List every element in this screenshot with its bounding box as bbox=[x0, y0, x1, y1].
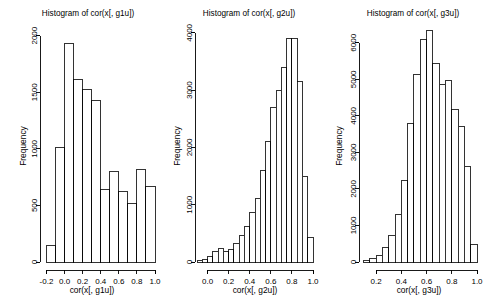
panel-histogram-2: Histogram of cor(x[, g2u]) Frequency cor… bbox=[163, 0, 326, 308]
x-axis-tick-label: 0.8 bbox=[286, 277, 298, 286]
x-axis-line bbox=[207, 270, 312, 274]
histogram-bar bbox=[260, 170, 265, 262]
histogram-bar bbox=[47, 245, 56, 262]
x-axis-2: 0.00.20.40.60.81.0 bbox=[202, 270, 319, 286]
histogram-bar bbox=[207, 257, 212, 262]
panel-histogram-3: Histogram of cor(x[, g3u]) Frequency cor… bbox=[325, 0, 488, 308]
histogram-bar bbox=[92, 100, 101, 262]
x-axis-3: 0.20.40.60.81.0 bbox=[371, 270, 484, 286]
x-axis-tick-label: 0.4 bbox=[95, 277, 107, 286]
histogram-bar bbox=[389, 236, 395, 262]
y-axis-label-2: Frequency bbox=[172, 125, 182, 165]
bars-group-1 bbox=[47, 44, 155, 262]
histogram-bar bbox=[297, 82, 302, 262]
x-axis-tick-label: 0.2 bbox=[371, 277, 383, 286]
x-axis-tick-label: 0.0 bbox=[59, 277, 71, 286]
y-axis-2: 01000200030004000 bbox=[185, 23, 195, 264]
histogram-bar bbox=[270, 107, 275, 262]
bars-group-3 bbox=[364, 30, 477, 262]
x-axis-tick-label: 0.6 bbox=[421, 277, 433, 286]
histogram-bar bbox=[146, 186, 155, 262]
y-axis-tick-label: 0 bbox=[349, 259, 358, 264]
x-axis-tick-label: 0.0 bbox=[202, 277, 214, 286]
x-axis-tick-label: 0.6 bbox=[113, 277, 125, 286]
histogram-bar bbox=[218, 249, 223, 262]
y-axis-tick-label: 2000 bbox=[349, 179, 358, 197]
histogram-bar bbox=[101, 190, 110, 262]
histogram-bar bbox=[376, 255, 382, 262]
histogram-bar bbox=[446, 80, 452, 262]
histogram-bar bbox=[395, 215, 401, 263]
y-axis-tick-label: 3000 bbox=[349, 143, 358, 161]
histogram-bar bbox=[83, 90, 92, 262]
histogram-bar bbox=[364, 261, 370, 262]
histogram-bar bbox=[427, 30, 433, 262]
y-axis-label-3: Frequency bbox=[334, 125, 344, 165]
x-axis-label-3: cor(x[, g3u]) bbox=[397, 285, 442, 295]
histogram-bar bbox=[119, 192, 128, 262]
y-axis-tick-label: 1500 bbox=[30, 83, 39, 101]
histogram-bar bbox=[421, 40, 427, 262]
histogram-bar bbox=[458, 126, 464, 262]
chart-title-2: Histogram of cor(x[, g2u]) bbox=[202, 9, 295, 18]
y-axis-tick-label: 6000 bbox=[349, 33, 358, 51]
x-axis-tick-label: 0.2 bbox=[223, 277, 235, 286]
y-axis-tick-label: 500 bbox=[30, 198, 39, 212]
x-axis-tick-label: 0.2 bbox=[77, 277, 89, 286]
histogram-bar bbox=[255, 199, 260, 262]
histogram-bar bbox=[65, 44, 74, 262]
histogram-bar bbox=[128, 203, 137, 262]
histogram-bar bbox=[212, 252, 217, 262]
histogram-bar bbox=[286, 39, 291, 262]
chart-title-1: Histogram of cor(x[, g1u]) bbox=[42, 9, 135, 18]
x-axis-label-1: cor(x[, g1u]) bbox=[70, 285, 115, 295]
x-axis-tick-label: -0.2 bbox=[40, 277, 54, 286]
histogram-bar bbox=[471, 244, 477, 262]
plot-svg-2: Histogram of cor(x[, g2u]) Frequency cor… bbox=[163, 0, 326, 308]
y-axis-tick-label: 5000 bbox=[349, 70, 358, 88]
panel-histogram-1: Histogram of cor(x[, g1u]) Frequency cor… bbox=[0, 0, 163, 308]
y-axis-tick-label: 0 bbox=[185, 259, 194, 264]
histogram-bar bbox=[197, 261, 202, 262]
y-axis-1: 0500100015002000 bbox=[30, 26, 40, 264]
histogram-bar bbox=[110, 171, 119, 262]
histogram-bar bbox=[292, 39, 297, 262]
histogram-bar bbox=[414, 75, 420, 262]
bars-group-2 bbox=[197, 39, 313, 262]
histogram-bar bbox=[249, 213, 254, 262]
x-axis-label-2: cor(x[, g2u]) bbox=[232, 285, 277, 295]
y-axis-tick-label: 1000 bbox=[30, 139, 39, 157]
histogram-bar bbox=[281, 67, 286, 262]
y-axis-label-1: Frequency bbox=[18, 125, 28, 165]
histogram-bar bbox=[370, 259, 376, 262]
histogram-bar bbox=[439, 84, 445, 262]
x-axis-tick-label: 1.0 bbox=[472, 277, 484, 286]
histogram-bar bbox=[383, 247, 389, 262]
histogram-bar bbox=[265, 142, 270, 262]
histogram-bar bbox=[307, 238, 312, 262]
x-axis-tick-label: 0.4 bbox=[396, 277, 408, 286]
histogram-bar bbox=[223, 251, 228, 262]
histogram-bar bbox=[228, 250, 233, 262]
plot-svg-1: Histogram of cor(x[, g1u]) Frequency cor… bbox=[0, 0, 163, 308]
x-axis-tick-label: 0.8 bbox=[447, 277, 459, 286]
y-axis-tick-label: 3000 bbox=[185, 81, 194, 99]
chart-title-3: Histogram of cor(x[, g3u]) bbox=[367, 9, 460, 18]
x-axis-1: -0.20.00.20.40.60.81.0 bbox=[40, 270, 161, 286]
y-axis-tick-label: 1000 bbox=[349, 216, 358, 234]
y-axis-tick-label: 4000 bbox=[185, 23, 194, 41]
y-axis-3: 0100020003000400050006000 bbox=[349, 33, 359, 264]
histogram-bar bbox=[244, 226, 249, 262]
y-axis-tick-label: 0 bbox=[30, 259, 39, 264]
histogram-bar bbox=[452, 110, 458, 262]
plot-svg-3: Histogram of cor(x[, g3u]) Frequency cor… bbox=[325, 0, 488, 308]
histogram-bar bbox=[408, 124, 414, 262]
x-axis-tick-label: 1.0 bbox=[149, 277, 161, 286]
histogram-bar bbox=[433, 64, 439, 262]
histogram-bar bbox=[137, 169, 146, 262]
histogram-figure: Histogram of cor(x[, g1u]) Frequency cor… bbox=[0, 0, 488, 308]
x-axis-tick-label: 0.4 bbox=[244, 277, 256, 286]
histogram-bar bbox=[239, 235, 244, 262]
x-axis-tick-label: 0.8 bbox=[131, 277, 143, 286]
y-axis-tick-label: 4000 bbox=[349, 106, 358, 124]
